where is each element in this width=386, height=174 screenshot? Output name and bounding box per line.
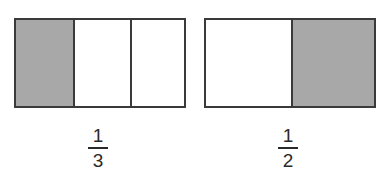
thirds-bar: [14, 18, 186, 108]
halves-cell-1: [206, 20, 291, 106]
fraction-bar: [278, 147, 298, 149]
fraction-denominator: 3: [83, 151, 113, 170]
thirds-cell-1-shaded: [16, 20, 73, 106]
fraction-denominator: 2: [273, 151, 303, 170]
fraction-numerator: 1: [273, 126, 303, 146]
thirds-cell-2: [73, 20, 130, 106]
fraction-bar: [88, 147, 108, 149]
fraction-one-third: 1 3: [83, 126, 113, 170]
halves-cell-2-shaded: [291, 20, 374, 106]
halves-bar: [204, 18, 376, 108]
fraction-numerator: 1: [83, 126, 113, 146]
fraction-one-half: 1 2: [273, 126, 303, 170]
thirds-cell-3: [130, 20, 184, 106]
